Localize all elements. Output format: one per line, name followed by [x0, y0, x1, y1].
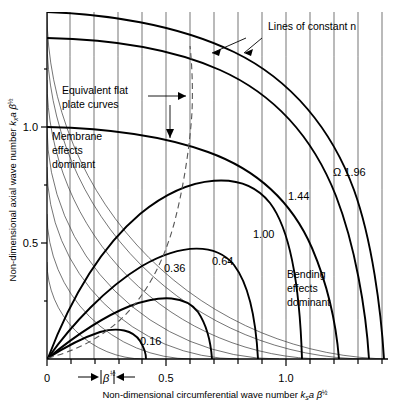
curve-label-1-00: 1.00: [253, 228, 274, 240]
x-tick-label-1-0: 1.0: [278, 372, 293, 384]
annotation-membrane-line3: dominant: [52, 158, 95, 170]
y-tick-label-1-0: 1.0: [23, 121, 38, 133]
annotation-bending-line2: effects: [287, 282, 318, 294]
svg-text:Non-dimensional axial wave num: Non-dimensional axial wave number kxa β½: [7, 98, 19, 281]
y-axis-title-prefix: Non-dimensional axial wave number: [7, 126, 18, 282]
x-tick-label-0: 0: [44, 372, 50, 384]
annotation-eq-flat-line2: plate curves: [62, 98, 119, 110]
wave-number-chart: 1.0 0.5 0 0.5 1.0 β ½ Non-dimensional ci…: [0, 0, 399, 403]
curve-label-0-16: 0.16: [140, 335, 161, 347]
y-axis-title-exponent: ½: [7, 98, 14, 104]
beta-symbol-label: β: [102, 372, 110, 384]
annotation-bending-line1: Bending: [287, 268, 326, 280]
curve-label-1-96: Ω 1.96: [333, 166, 366, 178]
y-tick-label-0-5: 0.5: [23, 237, 38, 249]
x-tick-label-0-5: 0.5: [158, 372, 173, 384]
annotation-lines-of-constant-n: Lines of constant n: [268, 20, 356, 32]
annotation-membrane-line1: Membrane: [52, 130, 102, 142]
annotation-eq-flat-line1: Equivalent flat: [62, 84, 128, 96]
curve-label-1-44: 1.44: [288, 190, 309, 202]
x-axis-title-prefix: Non-dimensional circumferential wave num…: [102, 389, 300, 400]
y-axis-title: Non-dimensional axial wave number kxa β½: [7, 98, 19, 281]
svg-text:Non-dimensional circumferentia: Non-dimensional circumferential wave num…: [102, 389, 328, 401]
annotation-membrane-line2: effects: [52, 144, 83, 156]
x-axis-title-exponent: ½: [322, 389, 328, 396]
x-axis-title-a: a: [309, 389, 317, 400]
annotation-bending-line3: dominant: [287, 296, 330, 308]
curve-label-0-36: 0.36: [164, 262, 185, 274]
x-axis-title: Non-dimensional circumferential wave num…: [102, 389, 328, 401]
chart-svg: 1.0 0.5 0 0.5 1.0 β ½ Non-dimensional ci…: [0, 0, 399, 403]
y-axis-title-a: a: [7, 109, 18, 117]
curve-label-0-64: 0.64: [212, 255, 233, 267]
beta-exponent-label: ½: [110, 370, 116, 377]
